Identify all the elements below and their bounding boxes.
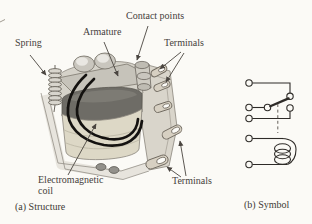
- switch-blade: [270, 98, 288, 106]
- label-terminals-top: Terminals: [164, 38, 204, 49]
- terminal-circle: [246, 135, 252, 141]
- label-terminals-bottom: Terminals: [172, 176, 212, 187]
- coil-symbol: [252, 139, 296, 165]
- terminal-circle: [246, 161, 252, 167]
- label-spring: Spring: [15, 38, 42, 49]
- terminal-circle: [246, 115, 252, 121]
- label-contact-points: Contact points: [126, 11, 184, 22]
- arrow-terminals-bottom-1: [180, 141, 186, 176]
- terminal-circle: [246, 104, 252, 110]
- label-electromagnetic-coil: Electromagnetic coil: [38, 175, 118, 197]
- label-armature: Armature: [83, 27, 121, 38]
- contact-points-art: [135, 61, 151, 90]
- caption-symbol: (b) Symbol: [244, 199, 289, 210]
- page-edge-artifact: [0, 20, 5, 23]
- no-contact-circle: [287, 105, 293, 111]
- caption-structure: (a) Structure: [15, 201, 65, 212]
- relay-symbol-schematic: [246, 80, 296, 168]
- relay-structure-art: [41, 53, 183, 180]
- terminal-circle: [246, 80, 252, 86]
- arrow-terminals-top-1: [160, 52, 181, 69]
- arrow-contact-points: [137, 26, 148, 60]
- arrow-spring: [30, 55, 46, 75]
- relay-figure: Spring Armature Contact points Terminals…: [0, 0, 312, 224]
- no-branch-wire: [252, 111, 290, 118]
- nc-branch-wire: [252, 83, 290, 93]
